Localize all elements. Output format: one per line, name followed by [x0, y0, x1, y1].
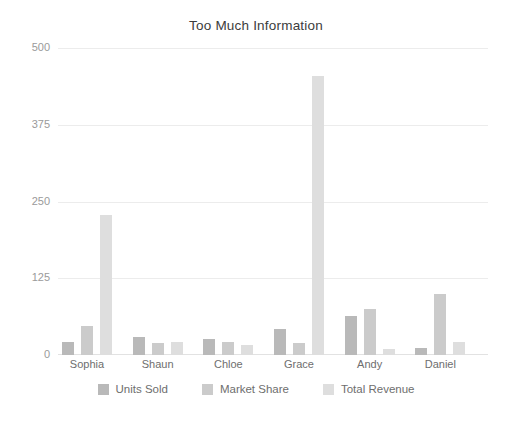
legend-label: Units Sold: [116, 383, 168, 395]
bar[interactable]: [415, 348, 427, 355]
bar[interactable]: [100, 215, 112, 355]
y-tick-label: 375: [6, 118, 50, 130]
plot-area: [58, 48, 488, 355]
x-tick-label: Grace: [284, 358, 314, 370]
bars-layer: [58, 48, 488, 355]
bar[interactable]: [241, 345, 253, 355]
bar[interactable]: [222, 342, 234, 356]
legend-item[interactable]: Total Revenue: [323, 383, 415, 395]
x-tick-label: Andy: [357, 358, 382, 370]
x-axis: SophiaShaunChloeGraceAndyDaniel: [58, 358, 488, 376]
bar-group: [203, 48, 253, 355]
bar[interactable]: [345, 316, 357, 355]
bar[interactable]: [274, 329, 286, 355]
x-tick-label: Sophia: [70, 358, 104, 370]
y-tick-label: 250: [6, 195, 50, 207]
bar[interactable]: [293, 343, 305, 355]
x-tick-label: Shaun: [142, 358, 174, 370]
bar-group: [345, 48, 395, 355]
y-tick-label: 125: [6, 271, 50, 283]
bar[interactable]: [152, 343, 164, 355]
y-tick-label: 0: [6, 348, 50, 360]
legend-swatch-icon: [323, 384, 334, 395]
bar[interactable]: [453, 342, 465, 356]
legend-swatch-icon: [202, 384, 213, 395]
legend-label: Market Share: [220, 383, 289, 395]
legend-label: Total Revenue: [341, 383, 415, 395]
legend-item[interactable]: Units Sold: [98, 383, 168, 395]
bar[interactable]: [383, 349, 395, 355]
legend-item[interactable]: Market Share: [202, 383, 289, 395]
bar[interactable]: [364, 309, 376, 355]
bar[interactable]: [133, 337, 145, 355]
bar-group: [62, 48, 112, 355]
x-tick-label: Daniel: [425, 358, 456, 370]
bar-group: [415, 48, 465, 355]
chart-legend: Units SoldMarket ShareTotal Revenue: [0, 383, 512, 395]
bar[interactable]: [203, 339, 215, 355]
bar[interactable]: [62, 342, 74, 356]
bar-group: [133, 48, 183, 355]
bar[interactable]: [312, 76, 324, 355]
chart-title: Too Much Information: [0, 18, 512, 33]
y-tick-label: 500: [6, 41, 50, 53]
bar-group: [274, 48, 324, 355]
bar[interactable]: [81, 326, 93, 355]
x-tick-label: Chloe: [214, 358, 243, 370]
bar-chart: Too Much Information 0125250375500 Sophi…: [0, 0, 512, 422]
bar[interactable]: [171, 342, 183, 356]
bar[interactable]: [434, 294, 446, 355]
legend-swatch-icon: [98, 384, 109, 395]
